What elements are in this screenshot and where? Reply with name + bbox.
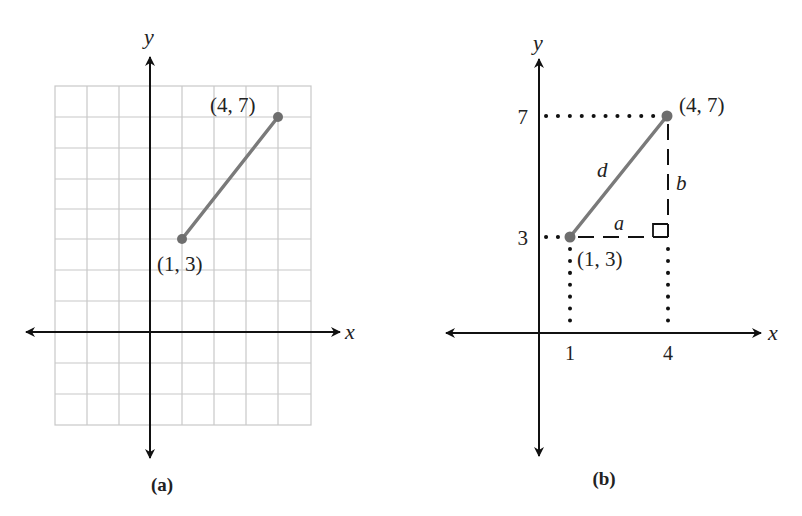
- y-axis-label: y: [531, 30, 543, 55]
- distance-formula-figure: x y (4, 7) (1, 3) (a) x y 1 4 3 7: [0, 0, 802, 516]
- panel-a: x y (4, 7) (1, 3) (a): [26, 24, 355, 496]
- right-angle-marker: [653, 224, 668, 237]
- point-4-7: [273, 112, 283, 122]
- y-tick-3: 3: [518, 226, 529, 250]
- y-tick-7: 7: [518, 105, 529, 129]
- point-label-1-3: (1, 3): [157, 252, 203, 276]
- point-4-7: [662, 111, 673, 122]
- point-1-3: [177, 234, 187, 244]
- x-axis-label: x: [344, 319, 355, 344]
- label-b: b: [676, 171, 687, 195]
- label-a: a: [614, 212, 624, 234]
- label-d: d: [597, 158, 608, 182]
- dotted-guides: [546, 116, 668, 328]
- caption-b: (b): [592, 468, 615, 490]
- point-label-4-7: (4, 7): [679, 93, 725, 117]
- x-axis-label: x: [767, 320, 778, 345]
- x-tick-1: 1: [565, 342, 575, 364]
- segment: [182, 117, 278, 239]
- y-axis-label: y: [142, 24, 154, 49]
- caption-a: (a): [151, 474, 173, 496]
- panel-b: x y 1 4 3 7 (4, 7) (1, 3) d b a (b): [446, 30, 778, 490]
- x-tick-4: 4: [663, 342, 673, 364]
- point-1-3: [565, 232, 576, 243]
- point-label-4-7: (4, 7): [210, 93, 256, 117]
- point-label-1-3: (1, 3): [577, 247, 623, 271]
